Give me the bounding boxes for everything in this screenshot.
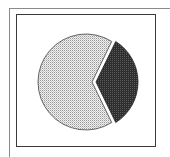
pie-chart	[0, 0, 170, 157]
